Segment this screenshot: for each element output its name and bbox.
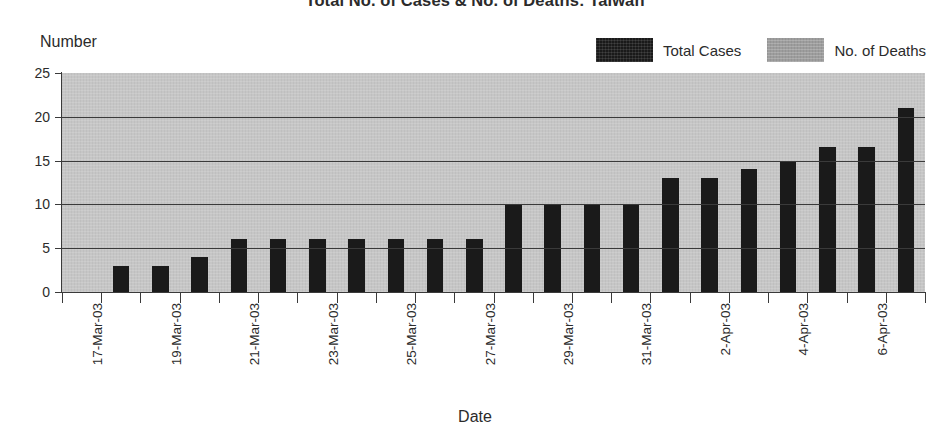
y-tick-label: 10 bbox=[16, 196, 50, 212]
bar bbox=[819, 147, 835, 292]
y-tick-label: 25 bbox=[16, 65, 50, 81]
x-tick-mark bbox=[650, 292, 651, 303]
legend-swatch-total-cases bbox=[596, 38, 653, 62]
x-tick-mark bbox=[886, 292, 887, 303]
gridline bbox=[62, 117, 925, 118]
x-tick-mark bbox=[140, 292, 141, 303]
x-tick-mark bbox=[572, 292, 573, 303]
bar bbox=[701, 178, 717, 292]
x-tick-mark bbox=[258, 292, 259, 303]
x-axis-labels: 17-Mar-0319-Mar-0321-Mar-0323-Mar-0325-M… bbox=[0, 303, 950, 403]
x-tick-mark bbox=[807, 292, 808, 303]
bar bbox=[780, 161, 796, 292]
x-tick-mark bbox=[690, 292, 691, 303]
x-tick-label: 23-Mar-03 bbox=[326, 303, 341, 365]
plot-area bbox=[62, 73, 925, 292]
x-tick-mark bbox=[219, 292, 220, 303]
bar bbox=[113, 266, 129, 292]
gridline bbox=[62, 248, 925, 249]
x-tick-mark bbox=[494, 292, 495, 303]
x-tick-mark bbox=[768, 292, 769, 303]
legend-item-total-cases: Total Cases bbox=[596, 38, 767, 62]
x-tick-mark bbox=[729, 292, 730, 303]
x-axis-title: Date bbox=[0, 408, 950, 426]
x-tick-mark bbox=[925, 292, 926, 303]
y-axis-title: Number bbox=[40, 33, 97, 51]
x-tick-mark bbox=[62, 292, 63, 303]
x-tick-label: 19-Mar-03 bbox=[169, 303, 184, 365]
bar bbox=[152, 266, 168, 292]
y-axis-line bbox=[61, 72, 62, 293]
gridline bbox=[62, 161, 925, 162]
legend-label-no-of-deaths: No. of Deaths bbox=[834, 42, 926, 59]
y-tick-label: 20 bbox=[16, 109, 50, 125]
y-tick-label: 15 bbox=[16, 153, 50, 169]
x-tick-label: 6-Apr-03 bbox=[875, 303, 890, 356]
bar bbox=[898, 108, 914, 292]
x-tick-mark bbox=[847, 292, 848, 303]
legend-item-no-of-deaths: No. of Deaths bbox=[767, 38, 950, 62]
chart-container: Total No. of Cases & No. of Deaths: Taiw… bbox=[0, 0, 950, 439]
x-tick-label: 4-Apr-03 bbox=[796, 303, 811, 356]
x-tick-label: 25-Mar-03 bbox=[404, 303, 419, 365]
y-tick-mark bbox=[55, 161, 62, 162]
chart-title: Total No. of Cases & No. of Deaths: Taiw… bbox=[0, 0, 950, 10]
x-tick-label: 27-Mar-03 bbox=[483, 303, 498, 365]
chart-legend: Total Cases No. of Deaths bbox=[596, 38, 950, 62]
legend-swatch-no-of-deaths bbox=[767, 38, 824, 62]
y-tick-mark bbox=[55, 117, 62, 118]
x-tick-mark bbox=[376, 292, 377, 303]
x-tick-label: 31-Mar-03 bbox=[639, 303, 654, 365]
bar bbox=[741, 169, 757, 292]
x-tick-label: 2-Apr-03 bbox=[718, 303, 733, 356]
x-tick-label: 21-Mar-03 bbox=[247, 303, 262, 365]
x-tick-mark bbox=[533, 292, 534, 303]
x-tick-label: 29-Mar-03 bbox=[561, 303, 576, 365]
x-tick-mark bbox=[611, 292, 612, 303]
y-tick-mark bbox=[55, 248, 62, 249]
x-tick-mark bbox=[101, 292, 102, 303]
x-tick-mark bbox=[454, 292, 455, 303]
x-tick-mark bbox=[415, 292, 416, 303]
gridline bbox=[62, 204, 925, 205]
bar bbox=[662, 178, 678, 292]
bar bbox=[191, 257, 207, 292]
legend-label-total-cases: Total Cases bbox=[663, 42, 741, 59]
y-tick-mark bbox=[55, 204, 62, 205]
y-tick-mark bbox=[55, 73, 62, 74]
y-tick-label: 5 bbox=[16, 240, 50, 256]
bar bbox=[858, 147, 874, 292]
x-tick-mark bbox=[180, 292, 181, 303]
bar-series-group bbox=[62, 73, 925, 292]
x-tick-mark bbox=[297, 292, 298, 303]
x-tick-mark bbox=[337, 292, 338, 303]
x-tick-label: 17-Mar-03 bbox=[90, 303, 105, 365]
